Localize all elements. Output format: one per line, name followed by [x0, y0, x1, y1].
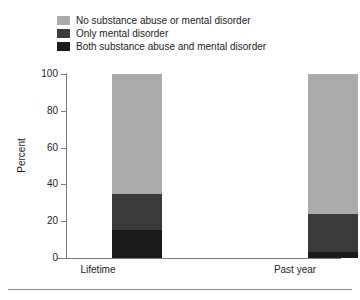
bar-segment-no-disorder [112, 74, 162, 194]
legend-swatch-only-mental [57, 29, 70, 38]
bar-segment-both [112, 230, 162, 258]
bar-segment-no-disorder [308, 74, 358, 214]
y-tick-label-text: 60 [18, 143, 58, 153]
y-tick-label-20: 20 [10, 216, 58, 226]
y-tick-label-text: 80 [18, 106, 58, 116]
y-tick-0 [61, 258, 66, 259]
legend-label-only-mental: Only mental disorder [76, 28, 168, 39]
bar-segment-only-mental [112, 194, 162, 231]
y-tick-label-text: 40 [18, 179, 58, 189]
bar-past-year [308, 74, 358, 258]
legend-label-no-disorder: No substance abuse or mental disorder [76, 15, 251, 26]
legend-item-both: Both substance abuse and mental disorder [57, 40, 337, 53]
y-tick-label-40: 40 [10, 179, 58, 189]
y-tick-label-80: 80 [10, 106, 58, 116]
y-tick-label-0: 0 [10, 253, 58, 263]
chart-legend: No substance abuse or mental disorder On… [57, 14, 337, 53]
bar-segment-only-mental [308, 214, 358, 253]
bottom-divider [8, 289, 352, 290]
y-tick-label-text: 100 [18, 69, 58, 79]
legend-item-only-mental: Only mental disorder [57, 27, 337, 40]
x-tick-label-past-year: Past year [240, 264, 350, 275]
y-tick-label-text: 20 [18, 216, 58, 226]
legend-item-no-disorder: No substance abuse or mental disorder [57, 14, 337, 27]
x-axis-line [57, 258, 341, 259]
legend-swatch-no-disorder [57, 16, 70, 25]
y-tick-label-100: 100 [10, 69, 58, 79]
y-tick-label-text: 0 [18, 253, 58, 263]
legend-label-both: Both substance abuse and mental disorder [76, 41, 266, 52]
legend-swatch-both [57, 42, 70, 51]
bar-lifetime [112, 74, 162, 258]
x-tick-label-lifetime: Lifetime [43, 264, 153, 275]
stacked-bar-chart-figure: No substance abuse or mental disorder On… [0, 0, 360, 300]
plot-area [66, 74, 328, 258]
y-tick-label-60: 60 [10, 143, 58, 153]
bar-segment-both [308, 252, 358, 258]
